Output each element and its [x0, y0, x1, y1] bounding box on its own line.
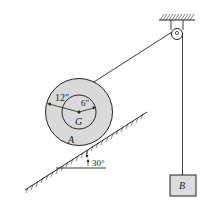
inner-radius-label: 6" — [81, 98, 90, 108]
angle-label: 30° — [92, 158, 105, 168]
spool-label: A — [67, 134, 75, 145]
spool-a — [46, 79, 113, 146]
outer-radius-label: 12" — [55, 92, 69, 103]
center-label: G — [75, 116, 82, 127]
spool-pulley-diagram: 12" 6" G A 30° B — [0, 0, 209, 206]
ceiling-support — [159, 14, 195, 30]
block-label: B — [179, 180, 185, 191]
pulley — [172, 29, 183, 40]
